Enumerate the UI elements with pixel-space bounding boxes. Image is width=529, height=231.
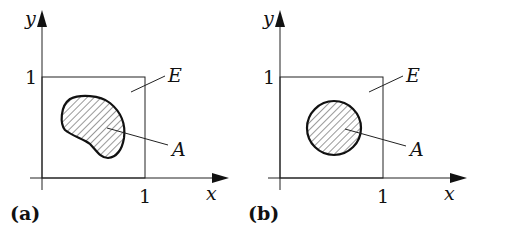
region-a-shape	[62, 96, 125, 158]
x-axis-label-a: x	[206, 182, 217, 204]
panel-b: y x 1 1 E A (b)	[248, 7, 467, 224]
y-axis-arrow-icon	[275, 10, 285, 27]
tick-y-1-a: 1	[25, 66, 37, 88]
tick-y-1-b: 1	[263, 66, 275, 88]
y-axis-arrow-icon	[37, 10, 47, 27]
panel-a: y x 1 1 E A (a)	[10, 7, 229, 224]
region-label-a-b: A	[408, 138, 424, 160]
square-label-e-a: E	[167, 64, 182, 86]
region-label-a-a: A	[170, 138, 186, 160]
y-axis-label-a: y	[24, 7, 36, 29]
tick-x-1-a: 1	[139, 185, 151, 207]
leader-e-b	[369, 76, 403, 92]
leader-e-a	[131, 76, 165, 92]
y-axis-label-b: y	[262, 7, 274, 29]
region-a-disk	[307, 101, 361, 155]
panel-label-b: (b)	[248, 202, 279, 224]
square-label-e-b: E	[405, 64, 420, 86]
panel-label-a: (a)	[10, 202, 40, 224]
tick-x-1-b: 1	[377, 185, 389, 207]
x-axis-label-b: x	[444, 182, 455, 204]
figure-canvas: y x 1 1 E A (a) y x 1 1 E A (b)	[0, 0, 529, 231]
